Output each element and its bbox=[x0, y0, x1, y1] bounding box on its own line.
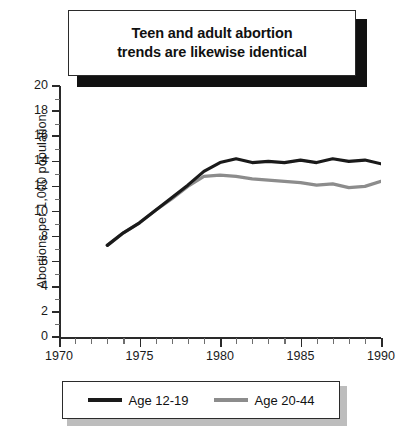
x-minor-tick-1971 bbox=[75, 338, 76, 344]
title-line-2: trends are likewise identical bbox=[117, 44, 307, 60]
x-minor-tick-1976 bbox=[156, 338, 157, 344]
series-line-age-20-44 bbox=[107, 175, 381, 245]
x-minor-tick-1982 bbox=[252, 338, 253, 344]
x-minor-tick-1979 bbox=[204, 338, 205, 344]
x-minor-tick-1987 bbox=[333, 338, 334, 344]
x-tick-label-1980: 1980 bbox=[197, 349, 243, 363]
x-tick-1980 bbox=[220, 338, 222, 347]
x-minor-tick-1989 bbox=[365, 338, 366, 344]
x-minor-tick-1973 bbox=[107, 338, 108, 344]
x-minor-tick-1988 bbox=[349, 338, 350, 344]
series-line-age-12-19 bbox=[107, 159, 381, 246]
chart-title-card: Teen and adult abortion trends are likew… bbox=[68, 10, 358, 78]
legend-label-age-20-44: Age 20-44 bbox=[255, 393, 315, 408]
title-line-1: Teen and adult abortion bbox=[132, 25, 293, 41]
chart-legend: Age 12-19 Age 20-44 bbox=[62, 381, 342, 421]
x-minor-tick-1978 bbox=[188, 338, 189, 344]
x-tick-label-1990: 1990 bbox=[358, 349, 402, 363]
title-card-body: Teen and adult abortion trends are likew… bbox=[68, 10, 356, 76]
x-minor-tick-1972 bbox=[91, 338, 92, 344]
legend-box: Age 12-19 Age 20-44 bbox=[62, 381, 340, 419]
x-tick-1985 bbox=[301, 338, 303, 347]
x-tick-1990 bbox=[381, 338, 383, 347]
x-minor-tick-1981 bbox=[236, 338, 237, 344]
series-lines bbox=[59, 86, 381, 338]
x-tick-label-1985: 1985 bbox=[278, 349, 324, 363]
legend-item-age-12-19[interactable]: Age 12-19 bbox=[88, 393, 189, 408]
x-tick-1970 bbox=[59, 338, 61, 347]
x-minor-tick-1986 bbox=[317, 338, 318, 344]
y-tick-label-text: 0 bbox=[26, 330, 48, 343]
x-tick-label-1970: 1970 bbox=[36, 349, 82, 363]
page-title: Teen and adult abortion trends are likew… bbox=[109, 24, 315, 62]
x-minor-tick-1977 bbox=[172, 338, 173, 344]
legend-item-age-20-44[interactable]: Age 20-44 bbox=[214, 393, 315, 408]
legend-label-age-12-19: Age 12-19 bbox=[129, 393, 189, 408]
x-minor-tick-1974 bbox=[123, 338, 124, 344]
x-tick-label-1975: 1975 bbox=[117, 349, 163, 363]
y-tick-label-0: 0 bbox=[22, 330, 48, 342]
legend-swatch-icon-age-12-19 bbox=[88, 398, 122, 402]
plot-area bbox=[59, 86, 381, 338]
x-tick-1975 bbox=[140, 338, 142, 347]
y-axis-title: Abortions per 1,000 population bbox=[34, 77, 49, 327]
x-minor-tick-1983 bbox=[268, 338, 269, 344]
x-minor-tick-1984 bbox=[284, 338, 285, 344]
legend-swatch-icon-age-20-44 bbox=[214, 398, 248, 402]
